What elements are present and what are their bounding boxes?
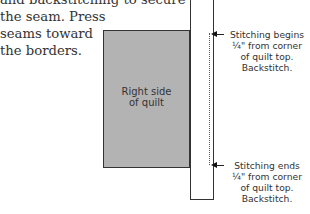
- quilt-label: Right side of quilt: [122, 86, 172, 108]
- border-strip: [190, 0, 214, 200]
- callout-line: Backstitch.: [224, 193, 310, 204]
- callout-line: of quilt top.: [224, 51, 310, 62]
- callout-line: ¼" from corner: [224, 40, 310, 51]
- callout-stitching-begins: Stitching begins ¼" from corner of quilt…: [224, 29, 310, 73]
- arrow-leader-line: [216, 165, 224, 166]
- callout-line: of quilt top.: [224, 182, 310, 193]
- arrow-leader-line: [216, 34, 224, 35]
- callout-line: ¼" from corner: [224, 171, 310, 182]
- instruction-line: and backstitching to secure: [0, 0, 185, 8]
- quilt-top-shape: Right side of quilt: [103, 30, 190, 168]
- callout-stitching-ends: Stitching ends ¼" from corner of quilt t…: [224, 160, 310, 204]
- quilt-label-line: Right side: [122, 86, 172, 97]
- quilt-label-line: of quilt: [122, 97, 172, 108]
- callout-line: Backstitch.: [224, 62, 310, 73]
- callout-line: Stitching begins: [224, 29, 310, 40]
- callout-line: Stitching ends: [224, 160, 310, 171]
- instruction-line: the seam. Press: [0, 8, 185, 25]
- stitch-line: [209, 33, 210, 165]
